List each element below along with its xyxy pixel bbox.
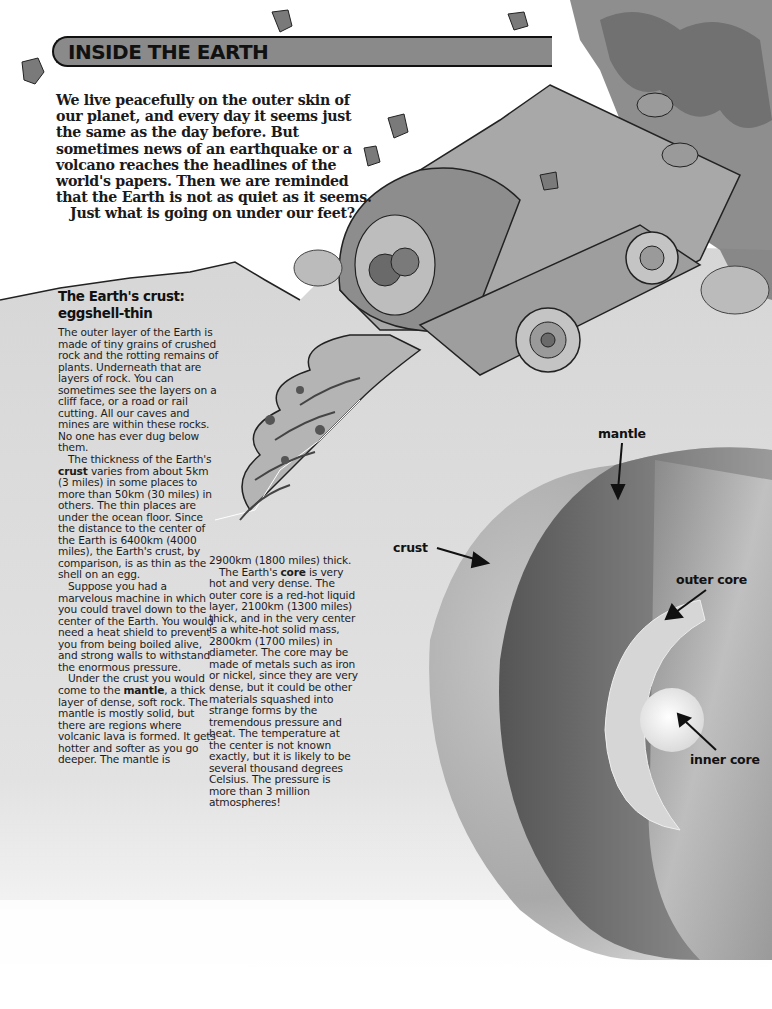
keyword-crust: crust	[58, 465, 88, 477]
body-column-1: The outer layer of the Earth is made of …	[58, 327, 220, 766]
text: is very hot and very dense. The outer co…	[209, 566, 358, 809]
intro-paragraph: We live peacefully on the outer skin of …	[56, 92, 386, 222]
label-mantle: mantle	[598, 426, 646, 441]
paragraph: Suppose you had a marvelous machine in w…	[58, 581, 220, 673]
section-heading-line2: eggshell-thin	[58, 306, 228, 323]
intro-line: sometimes news of an earthquake or a	[56, 141, 386, 157]
paragraph: The thickness of the Earth's crust varie…	[58, 454, 220, 581]
intro-line: our planet, and every day it seems just	[56, 108, 386, 124]
intro-line: We live peacefully on the outer skin of	[56, 92, 386, 108]
section-heading-line1: The Earth's crust:	[58, 289, 228, 306]
body-column-2: 2900km (1800 miles) thick. The Earth's c…	[209, 555, 359, 809]
paragraph: The Earth's core is very hot and very de…	[209, 567, 359, 809]
text: The thickness of the Earth's	[68, 453, 211, 465]
section-heading: The Earth's crust: eggshell-thin	[58, 289, 228, 322]
intro-line: the same as the day before. But	[56, 124, 386, 140]
label-inner-core: inner core	[690, 752, 760, 767]
title-banner: INSIDE THE EARTH	[52, 36, 552, 67]
label-outer-core: outer core	[676, 572, 747, 587]
text: , a thick layer of dense, soft rock. The…	[58, 684, 216, 765]
intro-line: that the Earth is not as quiet as it see…	[56, 189, 386, 205]
intro-line: world's papers. Then we are reminded	[56, 173, 386, 189]
paragraph: The outer layer of the Earth is made of …	[58, 327, 220, 454]
text: varies from about 5km (3 miles) in some …	[58, 465, 212, 581]
paragraph: Under the crust you would come to the ma…	[58, 673, 220, 765]
intro-line: volcano reaches the headlines of the	[56, 157, 386, 173]
keyword-mantle: mantle	[123, 684, 164, 696]
label-crust: crust	[393, 540, 428, 555]
page-title: INSIDE THE EARTH	[68, 40, 268, 64]
keyword-core: core	[280, 566, 305, 578]
text: The Earth's	[219, 566, 280, 578]
intro-closing: Just what is going on under our feet?	[56, 205, 386, 221]
